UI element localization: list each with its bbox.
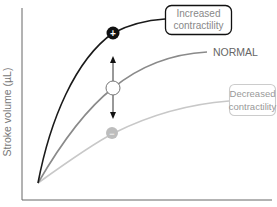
normal-marker — [106, 81, 120, 95]
frank-starling-diagram: Stroke volume (µL) + − Increased contrac… — [0, 0, 277, 207]
decreased-label-line2: contractility — [229, 101, 277, 112]
normal-label: NORMAL — [213, 46, 258, 58]
y-axis-label: Stroke volume (µL) — [1, 68, 13, 157]
decreased-label-line1: Decreased — [230, 88, 276, 99]
normal-curve — [38, 52, 207, 183]
decreased-curve — [38, 101, 229, 183]
arrow-up-icon — [110, 56, 116, 63]
increased-curve — [38, 19, 165, 183]
minus-icon: − — [109, 129, 114, 139]
plus-icon: + — [110, 28, 116, 39]
increased-label-line1: Increased — [177, 8, 221, 19]
increased-label-line2: contractility — [173, 20, 223, 31]
arrow-down-icon — [110, 112, 116, 119]
